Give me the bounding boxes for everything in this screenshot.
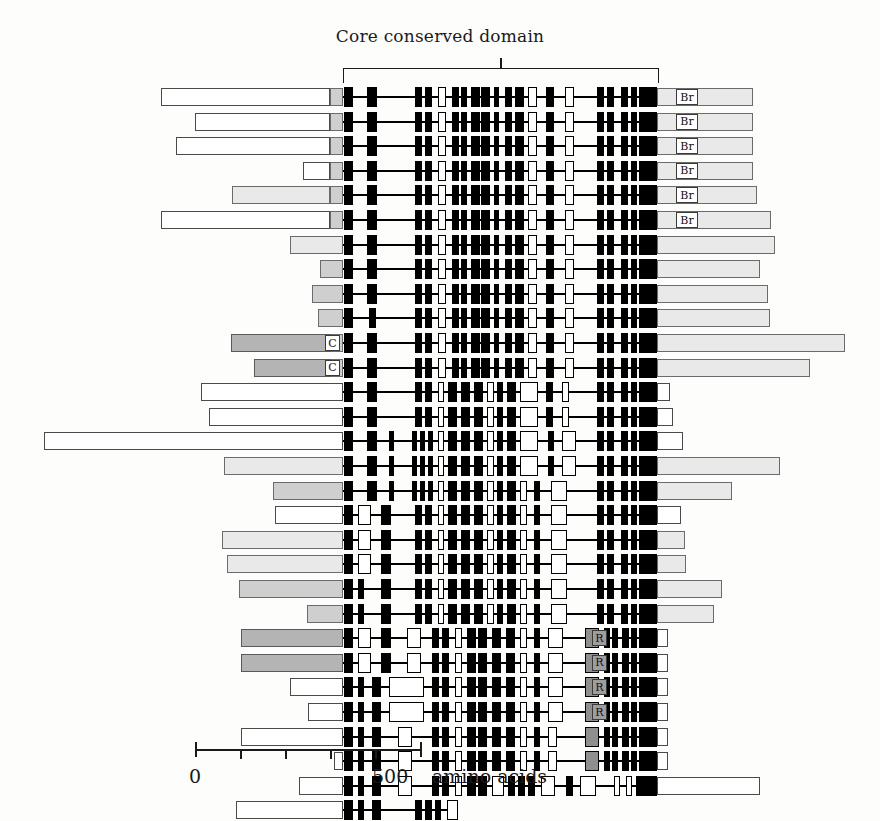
protein-row [0, 258, 880, 280]
repeat-block-black [474, 382, 483, 402]
repeat-block-black [461, 481, 470, 501]
repeat-block-black [415, 604, 422, 624]
repeat-block-black [597, 235, 604, 255]
repeat-block-black [425, 530, 432, 550]
repeat-block-black [639, 235, 657, 255]
repeat-block-black [471, 259, 480, 279]
repeat-block-black [631, 530, 637, 550]
repeat-block-black [607, 185, 614, 205]
protein-row [0, 307, 880, 329]
repeat-block-black [597, 333, 604, 353]
repeat-block-black [344, 210, 353, 230]
scale-label-max: 500 [372, 765, 408, 787]
repeat-block-black [425, 284, 432, 304]
c-terminal-extension [657, 506, 681, 524]
repeat-block-black [478, 653, 487, 673]
repeat-block-black [461, 579, 470, 599]
repeat-block-black [461, 308, 467, 328]
repeat-block-black [621, 185, 628, 205]
repeat-block-black [597, 431, 604, 451]
repeat-block-black [474, 604, 483, 624]
repeat-block-black [412, 431, 417, 451]
protein-row: Br [0, 86, 880, 108]
protein-row: R [0, 627, 880, 649]
repeat-block-black [344, 235, 353, 255]
repeat-block-black [471, 112, 480, 132]
repeat-block-black [452, 210, 459, 230]
repeat-block-black [481, 333, 490, 353]
repeat-block-black [372, 677, 381, 697]
repeat-block-black [607, 554, 614, 574]
domain-tag-br: Br [676, 114, 698, 130]
repeat-block-black [534, 628, 540, 648]
repeat-block-black [344, 112, 353, 132]
repeat-block-black [505, 235, 512, 255]
repeat-block-black [607, 358, 614, 378]
repeat-block-black [505, 308, 512, 328]
repeat-block-black [452, 284, 459, 304]
repeat-block-black [461, 333, 467, 353]
repeat-block-black [344, 161, 353, 181]
repeat-block-black [367, 87, 377, 107]
repeat-block-open [565, 284, 574, 304]
repeat-block-black [448, 407, 457, 427]
repeat-block-black [548, 431, 554, 451]
c-terminal-extension [657, 531, 685, 549]
repeat-block-black [432, 653, 439, 673]
repeat-block-black [505, 259, 512, 279]
repeat-block-black [631, 481, 637, 501]
repeat-block-black [497, 505, 503, 525]
repeat-block-black [506, 677, 515, 697]
repeat-block-open [487, 431, 494, 451]
repeat-block-black [546, 161, 554, 181]
repeat-block-open [562, 456, 576, 476]
repeat-block-black [471, 87, 480, 107]
repeat-block-open [487, 481, 494, 501]
repeat-block-open [438, 112, 446, 132]
repeat-block-black [415, 210, 422, 230]
repeat-block-black [461, 136, 467, 156]
n-terminal-extension [161, 88, 330, 106]
repeat-block-black [546, 308, 554, 328]
repeat-block-black [448, 579, 457, 599]
repeat-block-open [438, 210, 446, 230]
repeat-block-black [505, 87, 512, 107]
n-terminal-extension [312, 285, 343, 303]
repeat-block-black [631, 333, 637, 353]
domain-tag-c: C [325, 335, 340, 351]
repeat-block-black [597, 185, 604, 205]
repeat-block-open [438, 604, 444, 624]
repeat-block-black [534, 653, 540, 673]
repeat-block-black [425, 112, 432, 132]
repeat-block-black [481, 308, 490, 328]
c-terminal-extension [657, 629, 668, 647]
repeat-block-black [481, 161, 490, 181]
repeat-block-black [367, 456, 377, 476]
repeat-block-black [597, 579, 604, 599]
repeat-block-black [506, 702, 515, 722]
repeat-block-black [474, 407, 483, 427]
repeat-block-black [432, 702, 439, 722]
repeat-block-black [425, 87, 432, 107]
repeat-block-black [415, 308, 422, 328]
repeat-block-black [639, 284, 657, 304]
repeat-block-black [515, 284, 524, 304]
repeat-block-black [474, 579, 483, 599]
repeat-block-open [438, 579, 444, 599]
repeat-block-open [358, 653, 371, 673]
repeat-block-open [528, 259, 537, 279]
repeat-block-black [631, 702, 637, 722]
scale-axis-line [195, 749, 420, 751]
repeat-block-black [621, 456, 628, 476]
repeat-block-open [565, 210, 574, 230]
repeat-block-open [438, 87, 446, 107]
repeat-block-black [367, 333, 377, 353]
repeat-block-black [534, 579, 540, 599]
repeat-block-black [481, 112, 490, 132]
repeat-block-black [505, 284, 512, 304]
repeat-block-open [565, 185, 574, 205]
repeat-block-black [412, 481, 417, 501]
n-terminal-extension [161, 211, 330, 229]
n-terminal-extension [231, 334, 331, 352]
c-terminal-extension [657, 432, 683, 450]
